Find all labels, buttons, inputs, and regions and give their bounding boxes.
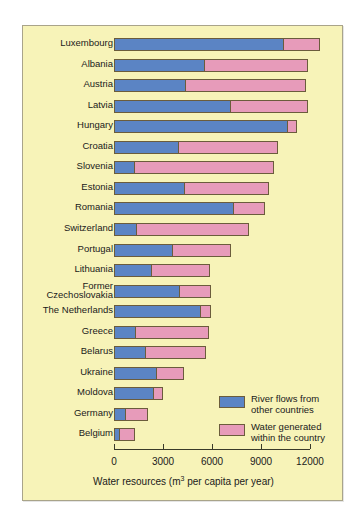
- bar-row: Greece: [23, 326, 344, 339]
- bar-segment-river-flows: [114, 285, 180, 298]
- bar-segment-river-flows: [114, 223, 137, 236]
- legend-label-line-2: other countries: [251, 404, 343, 415]
- category-label: Lithuania: [0, 264, 113, 274]
- axis-tick-label: 9000: [250, 456, 272, 467]
- bar-segment-river-flows: [114, 244, 173, 257]
- bar-row: Belarus: [23, 346, 344, 359]
- stacked-bar: [114, 305, 211, 318]
- stacked-bar: [114, 59, 308, 72]
- axis-tick-label: 6000: [201, 456, 223, 467]
- category-label: Ukraine: [0, 367, 113, 377]
- legend-swatch-water-generated: [219, 424, 245, 436]
- category-label: Belgium: [0, 428, 113, 438]
- bar-row: Austria: [23, 79, 344, 92]
- stacked-bar: [114, 141, 278, 154]
- bar-row: Lithuania: [23, 264, 344, 277]
- axis-tick-label: 3000: [152, 456, 174, 467]
- legend-label-line-1: Water generated: [251, 421, 343, 432]
- category-label: Romania: [0, 202, 113, 212]
- bar-segment-water-generated: [231, 100, 309, 113]
- category-label: Portugal: [0, 244, 113, 254]
- stacked-bar: [114, 326, 209, 339]
- stacked-bar: [114, 223, 249, 236]
- bar-segment-water-generated: [146, 346, 206, 359]
- bar-segment-river-flows: [114, 305, 201, 318]
- bar-segment-water-generated: [120, 428, 135, 441]
- bar-segment-river-flows: [114, 38, 284, 51]
- bar-row: Slovenia: [23, 161, 344, 174]
- category-label: Slovenia: [0, 161, 113, 171]
- stacked-bar: [114, 38, 320, 51]
- bar-row: The Netherlands: [23, 305, 344, 318]
- bar-segment-river-flows: [114, 59, 205, 72]
- category-label: Hungary: [0, 120, 113, 130]
- category-label: The Netherlands: [0, 305, 113, 315]
- x-axis-title-suffix: per capita per year): [184, 476, 274, 487]
- stacked-bar: [114, 367, 184, 380]
- x-axis-title-prefix: Water resources (m: [93, 476, 180, 487]
- bar-segment-water-generated: [152, 264, 209, 277]
- bar-segment-water-generated: [201, 305, 210, 318]
- stacked-bar: [114, 120, 297, 133]
- axis-tick: [212, 444, 213, 449]
- category-label: Greece: [0, 326, 113, 336]
- category-label: Luxembourg: [0, 38, 113, 48]
- bar-segment-water-generated: [173, 244, 230, 257]
- bar-segment-river-flows: [114, 346, 146, 359]
- axis-tick: [114, 444, 115, 449]
- x-axis-title: Water resources (m3 per capita per year): [23, 475, 344, 487]
- bar-segment-river-flows: [114, 79, 186, 92]
- category-label: Belarus: [0, 346, 113, 356]
- chart-frame: LuxembourgAlbaniaAustriaLatviaHungaryCro…: [22, 25, 343, 501]
- bar-segment-river-flows: [114, 264, 152, 277]
- bar-segment-river-flows: [114, 202, 234, 215]
- stacked-bar: [114, 428, 135, 441]
- bar-row: Switzerland: [23, 223, 344, 236]
- bar-row: FormerCzechoslovakia: [23, 285, 344, 298]
- bar-segment-water-generated: [137, 223, 249, 236]
- legend-item: Water generatedwithin the country: [219, 422, 341, 450]
- bar-row: Portugal: [23, 244, 344, 257]
- category-label: FormerCzechoslovakia: [0, 281, 113, 300]
- legend-label: Water generatedwithin the country: [251, 421, 343, 443]
- bar-row: Luxembourg: [23, 38, 344, 51]
- bar-segment-river-flows: [114, 182, 185, 195]
- bar-segment-river-flows: [114, 100, 231, 113]
- bar-segment-water-generated: [185, 182, 268, 195]
- category-label: Croatia: [0, 141, 113, 151]
- bar-row: Ukraine: [23, 367, 344, 380]
- bar-segment-river-flows: [114, 367, 157, 380]
- stacked-bar: [114, 79, 306, 92]
- stacked-bar: [114, 182, 269, 195]
- axis-tick-label: 12000: [296, 456, 324, 467]
- bar-segment-river-flows: [114, 326, 136, 339]
- bar-segment-river-flows: [114, 387, 154, 400]
- category-label: Latvia: [0, 100, 113, 110]
- bar-row: Latvia: [23, 100, 344, 113]
- bar-segment-water-generated: [136, 326, 209, 339]
- category-label: Switzerland: [0, 223, 113, 233]
- bar-segment-water-generated: [284, 38, 320, 51]
- legend-swatch-river-flows: [219, 396, 245, 408]
- bar-segment-water-generated: [126, 408, 148, 421]
- bar-row: Romania: [23, 202, 344, 215]
- bar-segment-river-flows: [114, 408, 126, 421]
- bar-segment-water-generated: [234, 202, 265, 215]
- category-label: Estonia: [0, 182, 113, 192]
- legend-item: River flows fromother countries: [219, 394, 341, 422]
- stacked-bar: [114, 244, 231, 257]
- bar-row: Croatia: [23, 141, 344, 154]
- stacked-bar: [114, 346, 206, 359]
- stacked-bar: [114, 100, 308, 113]
- axis-tick: [163, 444, 164, 449]
- stacked-bar: [114, 408, 148, 421]
- stacked-bar: [114, 285, 211, 298]
- bar-row: Estonia: [23, 182, 344, 195]
- category-label: Austria: [0, 79, 113, 89]
- legend: River flows fromother countriesWater gen…: [219, 394, 341, 450]
- category-label: Moldova: [0, 387, 113, 397]
- bar-row: Hungary: [23, 120, 344, 133]
- bar-segment-water-generated: [186, 79, 306, 92]
- legend-label-line-1: River flows from: [251, 393, 343, 404]
- axis-tick-label: 0: [111, 456, 117, 467]
